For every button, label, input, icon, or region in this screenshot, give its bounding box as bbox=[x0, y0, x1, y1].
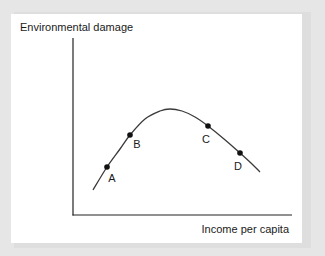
point-d-label: D bbox=[234, 160, 242, 172]
chart: Environmental damage Income per capita A… bbox=[0, 0, 325, 256]
y-axis-label: Environmental damage bbox=[20, 21, 133, 33]
kuznets-curve bbox=[93, 109, 260, 190]
point-b-marker bbox=[127, 132, 133, 138]
x-axis-label: Income per capita bbox=[202, 223, 290, 235]
point-d-marker bbox=[237, 150, 243, 156]
data-points: ABCD bbox=[104, 123, 243, 184]
point-a-label: A bbox=[108, 172, 116, 184]
point-a-marker bbox=[104, 164, 110, 170]
point-c-marker bbox=[205, 123, 211, 129]
point-c-label: C bbox=[202, 133, 210, 145]
point-b-label: B bbox=[133, 138, 140, 150]
